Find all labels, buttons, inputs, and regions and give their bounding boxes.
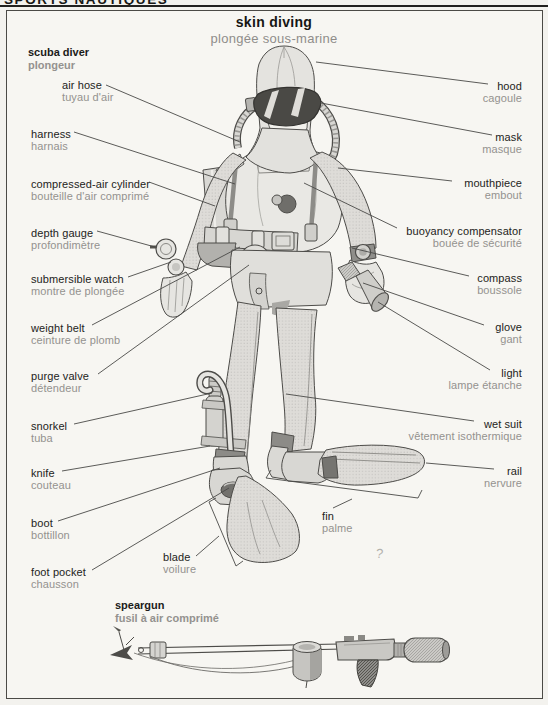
plate-frame <box>6 10 543 699</box>
label-compressed-air-cylinder-en: compressed-air cylinder <box>31 178 150 190</box>
label-air-hose: air hose tuyau d'air <box>62 79 114 104</box>
section-scuba-diver-fr: plongeur <box>28 59 89 72</box>
label-wet-suit: wet suit vêtement isothermique <box>409 418 522 443</box>
label-hood-en: hood <box>483 80 522 92</box>
label-wet-suit-fr: vêtement isothermique <box>409 430 522 442</box>
label-blade-fr: voilure <box>163 563 196 575</box>
label-glove: glove gant <box>495 321 522 346</box>
label-snorkel-fr: tuba <box>31 432 67 444</box>
kicker-rule <box>0 5 548 7</box>
section-speargun-fr: fusil à air comprimé <box>115 612 219 625</box>
label-knife: knife couteau <box>31 467 71 492</box>
label-compass: compass boussole <box>477 272 522 297</box>
label-purge-valve-en: purge valve <box>31 370 89 382</box>
label-depth-gauge-en: depth gauge <box>31 227 100 239</box>
label-knife-en: knife <box>31 467 71 479</box>
label-harness-en: harness <box>31 128 71 140</box>
label-compressed-air-cylinder: compressed-air cylinder bouteille d'air … <box>31 178 150 203</box>
label-air-hose-fr: tuyau d'air <box>62 91 114 103</box>
label-purge-valve: purge valve détendeur <box>31 370 89 395</box>
label-depth-gauge-fr: profondimètre <box>31 239 100 251</box>
label-mouthpiece-fr: embout <box>464 189 522 201</box>
label-glove-en: glove <box>495 321 522 333</box>
label-mask: mask masque <box>482 131 522 156</box>
label-rail-fr: nervure <box>484 477 522 489</box>
label-hood-fr: cagoule <box>483 92 522 104</box>
label-rail-en: rail <box>484 465 522 477</box>
label-blade: blade voilure <box>163 551 196 576</box>
label-glove-fr: gant <box>495 333 522 345</box>
stray-print-mark: ? <box>375 546 384 562</box>
label-light-en: light <box>449 367 522 379</box>
label-weight-belt-fr: ceinture de plomb <box>31 334 120 346</box>
label-hood: hood cagoule <box>483 80 522 105</box>
label-air-hose-en: air hose <box>62 79 114 91</box>
label-weight-belt-en: weight belt <box>31 322 120 334</box>
label-fin: fin palme <box>322 510 352 535</box>
label-compressed-air-cylinder-fr: bouteille d'air comprimé <box>31 190 150 202</box>
section-scuba-diver-en: scuba diver <box>28 46 89 59</box>
plate-title-fr: plongée sous-marine <box>0 31 548 46</box>
dictionary-page: SPORTS NAUTIQUES skin diving plongée sou… <box>0 0 548 705</box>
label-rail: rail nervure <box>484 465 522 490</box>
label-harness-fr: harnais <box>31 140 71 152</box>
label-blade-en: blade <box>163 551 196 563</box>
section-speargun-en: speargun <box>115 599 219 612</box>
label-fin-en: fin <box>322 510 352 522</box>
label-light: light lampe étanche <box>449 367 522 392</box>
label-knife-fr: couteau <box>31 479 71 491</box>
label-compass-fr: boussole <box>477 284 522 296</box>
label-fin-fr: palme <box>322 522 352 534</box>
label-purge-valve-fr: détendeur <box>31 382 89 394</box>
label-weight-belt: weight belt ceinture de plomb <box>31 322 120 347</box>
label-boot: boot bottillon <box>31 517 70 542</box>
label-harness: harness harnais <box>31 128 71 153</box>
label-foot-pocket-fr: chausson <box>31 578 86 590</box>
label-mask-fr: masque <box>482 143 522 155</box>
label-buoyancy-compensator-fr: bouée de sécurité <box>406 237 522 249</box>
label-submersible-watch: submersible watch montre de plongée <box>31 273 124 298</box>
label-foot-pocket: foot pocket chausson <box>31 566 86 591</box>
label-mouthpiece: mouthpiece embout <box>464 177 522 202</box>
label-mask-en: mask <box>482 131 522 143</box>
label-light-fr: lampe étanche <box>449 379 522 391</box>
label-mouthpiece-en: mouthpiece <box>464 177 522 189</box>
label-depth-gauge: depth gauge profondimètre <box>31 227 100 252</box>
label-submersible-watch-en: submersible watch <box>31 273 124 285</box>
label-compass-en: compass <box>477 272 522 284</box>
plate-title: skin diving plongée sous-marine <box>0 14 548 46</box>
label-submersible-watch-fr: montre de plongée <box>31 285 124 297</box>
section-speargun: speargun fusil à air comprimé <box>115 599 219 624</box>
label-boot-en: boot <box>31 517 70 529</box>
label-wet-suit-en: wet suit <box>409 418 522 430</box>
label-foot-pocket-en: foot pocket <box>31 566 86 578</box>
label-buoyancy-compensator-en: buoyancy compensator <box>406 225 522 237</box>
label-snorkel-en: snorkel <box>31 420 67 432</box>
plate-title-en: skin diving <box>0 14 548 30</box>
label-snorkel: snorkel tuba <box>31 420 67 445</box>
section-scuba-diver: scuba diver plongeur <box>28 46 89 71</box>
label-buoyancy-compensator: buoyancy compensator bouée de sécurité <box>406 225 522 250</box>
label-boot-fr: bottillon <box>31 529 70 541</box>
